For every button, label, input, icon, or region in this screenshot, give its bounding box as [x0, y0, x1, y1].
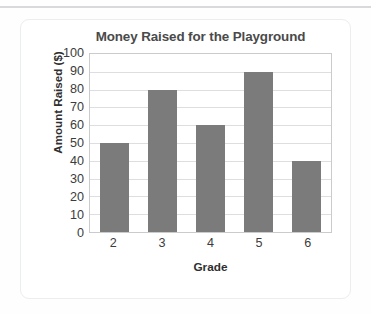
x-axis-title: Grade [89, 260, 332, 274]
bar-grade-5 [244, 72, 273, 232]
chart-card: Money Raised for the Playground Amount R… [20, 19, 351, 299]
bar-slot [186, 54, 234, 232]
y-tick-label: 80 [40, 82, 84, 96]
y-tick-label: 60 [40, 118, 84, 132]
bar-slot [90, 54, 138, 232]
y-tick-label: 0 [40, 226, 84, 240]
bar-slot [283, 54, 331, 232]
y-tick-label: 70 [40, 100, 84, 114]
y-tick-label: 40 [40, 154, 84, 168]
x-tick-label-2: 2 [89, 236, 138, 250]
bar-grade-3 [148, 90, 177, 232]
bar-slot [138, 54, 186, 232]
x-tick-label-6: 6 [283, 236, 332, 250]
x-tick-label-5: 5 [235, 236, 284, 250]
x-axis-tick-labels: 23456 [89, 236, 332, 250]
bar-grade-6 [292, 161, 321, 232]
chart-title: Money Raised for the Playground [21, 29, 352, 44]
bar-series [90, 54, 331, 232]
bar-grade-2 [100, 143, 129, 232]
page-root: Money Raised for the Playground Amount R… [0, 0, 371, 314]
y-tick-label: 20 [40, 190, 84, 204]
plot-area [89, 53, 332, 233]
y-tick-label: 10 [40, 208, 84, 222]
page-top-divider [0, 6, 371, 8]
y-tick-label: 90 [40, 64, 84, 78]
bar-grade-4 [196, 125, 225, 232]
bar-slot [235, 54, 283, 232]
x-tick-label-3: 3 [138, 236, 187, 250]
y-tick-label: 100 [40, 46, 84, 60]
y-tick-label: 50 [40, 136, 84, 150]
x-tick-label-4: 4 [186, 236, 235, 250]
y-tick-label: 30 [40, 172, 84, 186]
